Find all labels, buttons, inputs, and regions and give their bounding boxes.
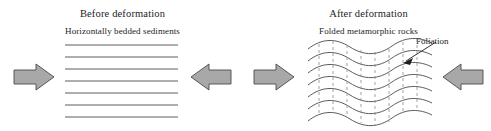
compression-arrow-left-icon	[14, 64, 54, 90]
folded-line	[308, 38, 432, 53]
folded-line	[308, 50, 432, 65]
folded-line	[308, 98, 432, 113]
deformation-figure: Before deformation Horizontally bedded s…	[0, 0, 491, 131]
folded-line	[308, 110, 432, 125]
foliation-leader-line	[403, 42, 436, 65]
folded-line	[308, 86, 432, 101]
folded-line	[308, 74, 432, 89]
panel-after-deformation: After deformation Folded metamorphic roc…	[246, 0, 491, 131]
after-deformation-graphic	[246, 0, 491, 131]
before-deformation-graphic	[0, 0, 245, 131]
folded-line	[308, 62, 432, 77]
compression-arrow-left-icon	[254, 64, 294, 90]
folded-lines	[308, 38, 432, 125]
compression-arrow-right-icon	[191, 64, 231, 90]
panel-before-deformation: Before deformation Horizontally bedded s…	[0, 0, 245, 131]
bedding-lines	[65, 45, 178, 117]
compression-arrow-right-icon	[443, 64, 483, 90]
